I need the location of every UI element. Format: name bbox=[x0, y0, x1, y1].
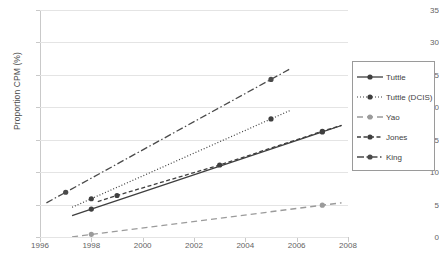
legend-item-tuttle[interactable]: Tuttle bbox=[353, 68, 434, 86]
y-axis-title: Proportion CPM (%) bbox=[12, 11, 22, 171]
legend-swatch-icon bbox=[357, 91, 383, 103]
x-tick-mark bbox=[91, 238, 92, 242]
legend-label: Yao bbox=[386, 113, 400, 122]
x-tick-label: 2000 bbox=[123, 241, 163, 250]
data-point bbox=[320, 129, 325, 134]
data-point bbox=[89, 196, 94, 201]
x-tick-mark bbox=[40, 238, 41, 242]
plot-area bbox=[40, 10, 348, 237]
series-line bbox=[72, 126, 342, 216]
data-point bbox=[89, 207, 94, 212]
series-line bbox=[72, 203, 342, 237]
legend-swatch-icon bbox=[357, 111, 383, 123]
data-point bbox=[114, 193, 119, 198]
y-tick-label: 35 bbox=[409, 6, 439, 15]
y-tick-label: 0 bbox=[409, 233, 439, 242]
series-jones bbox=[98, 125, 342, 201]
x-tick-label: 2008 bbox=[328, 241, 368, 250]
line-chart: Proportion CPM (%) 05101520253035 199619… bbox=[0, 0, 439, 261]
legend-swatch-icon bbox=[357, 151, 383, 163]
y-tick-label: 30 bbox=[409, 38, 439, 47]
series-tuttle-dcis bbox=[72, 110, 290, 207]
legend-item-king[interactable]: King bbox=[353, 148, 434, 166]
legend-label: Jones bbox=[386, 133, 407, 142]
legend-item-tuttle-dcis[interactable]: Tuttle (DCIS) bbox=[353, 88, 434, 106]
x-tick-mark bbox=[245, 238, 246, 242]
legend-swatch-icon bbox=[357, 131, 383, 143]
legend-item-jones[interactable]: Jones bbox=[353, 128, 434, 146]
chart-legend: TuttleTuttle (DCIS)YaoJonesKing bbox=[352, 61, 435, 171]
data-point bbox=[217, 162, 222, 167]
data-point bbox=[63, 190, 68, 195]
x-tick-label: 2002 bbox=[174, 241, 214, 250]
x-tick-label: 1998 bbox=[71, 241, 111, 250]
legend-label: Tuttle bbox=[386, 73, 406, 82]
x-tick-label: 1996 bbox=[20, 241, 60, 250]
legend-swatch-icon bbox=[357, 71, 383, 83]
series-tuttle bbox=[72, 126, 342, 216]
data-point bbox=[268, 77, 273, 82]
x-tick-label: 2006 bbox=[277, 241, 317, 250]
series-yao bbox=[72, 203, 342, 237]
gridline bbox=[40, 237, 348, 238]
x-tick-mark bbox=[297, 238, 298, 242]
series-layer bbox=[40, 10, 348, 237]
y-tick-label: 5 bbox=[409, 200, 439, 209]
x-tick-label: 2004 bbox=[225, 241, 265, 250]
data-point bbox=[89, 232, 94, 237]
x-tick-mark bbox=[143, 238, 144, 242]
series-line bbox=[72, 110, 290, 207]
legend-label: Tuttle (DCIS) bbox=[386, 93, 432, 102]
data-point bbox=[268, 116, 273, 121]
data-point bbox=[320, 203, 325, 208]
legend-label: King bbox=[386, 153, 402, 162]
x-tick-mark bbox=[348, 238, 349, 242]
legend-item-yao[interactable]: Yao bbox=[353, 108, 434, 126]
x-tick-mark bbox=[194, 238, 195, 242]
